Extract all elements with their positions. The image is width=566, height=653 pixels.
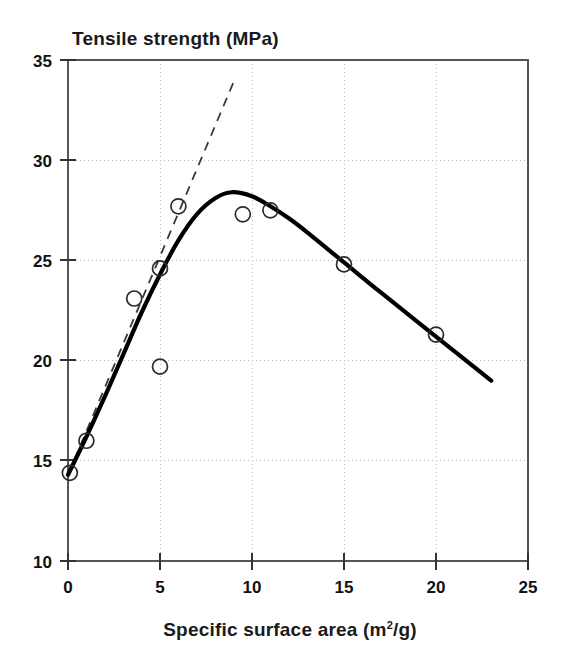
chart-background	[0, 0, 566, 653]
y-axis-title: Tensile strength (MPa)	[72, 28, 279, 49]
chart-figure: Tensile strength (MPa)	[0, 0, 566, 653]
y-tick-label-15: 15	[33, 452, 52, 471]
y-tick-label-25: 25	[33, 252, 52, 271]
y-tick-label-20: 20	[33, 352, 52, 371]
y-tick-label-10: 10	[33, 553, 52, 572]
x-tick-label-25: 25	[519, 578, 538, 597]
x-axis-title: Specific surface area (m2/g)	[163, 619, 417, 640]
x-axis-title-before: Specific surface area (m	[163, 619, 386, 640]
y-tick-label-35: 35	[33, 52, 52, 71]
x-tick-label-20: 20	[427, 578, 446, 597]
tensile-strength-scatter-chart: Tensile strength (MPa)	[0, 0, 566, 653]
x-tick-label-15: 15	[335, 578, 354, 597]
x-tick-label-5: 5	[155, 578, 164, 597]
x-axis-title-after: /g)	[393, 619, 417, 640]
x-tick-label-0: 0	[63, 578, 72, 597]
x-tick-label-10: 10	[243, 578, 262, 597]
y-tick-label-30: 30	[33, 152, 52, 171]
